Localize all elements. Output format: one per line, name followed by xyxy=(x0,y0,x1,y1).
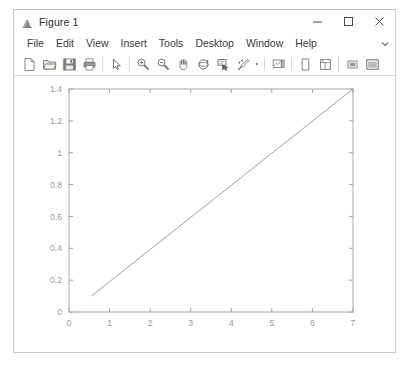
x-tick-label: 4 xyxy=(229,318,234,328)
y-tick-label: 0.8 xyxy=(50,180,62,190)
menu-bar: File Edit View Insert Tools Desktop Wind… xyxy=(14,33,395,53)
toolbar-separator-5 xyxy=(338,57,339,71)
y-tick-label: 0.4 xyxy=(50,243,62,253)
menu-item-file[interactable]: File xyxy=(21,33,50,53)
toolbar-separator-1 xyxy=(102,57,103,71)
chevron-down-icon[interactable] xyxy=(381,40,389,48)
x-tick-label: 5 xyxy=(269,318,274,328)
y-tick-label: 1 xyxy=(57,148,62,158)
plot-browser-icon[interactable] xyxy=(315,54,335,74)
legend-icon[interactable] xyxy=(295,54,315,74)
brush-select-icon[interactable] xyxy=(233,54,253,74)
window-title: Figure 1 xyxy=(39,16,78,28)
printer-icon[interactable] xyxy=(79,54,99,74)
new-document-icon[interactable] xyxy=(19,54,39,74)
title-bar-left: Figure 1 xyxy=(14,16,78,28)
data-line-line1 xyxy=(91,89,353,296)
title-bar[interactable]: Figure 1 xyxy=(14,10,395,33)
menu-item-window[interactable]: Window xyxy=(240,33,289,53)
close-button[interactable] xyxy=(364,10,395,33)
save-floppy-icon[interactable] xyxy=(59,54,79,74)
y-tick-label: 0.2 xyxy=(50,275,62,285)
window-controls xyxy=(302,10,395,33)
property-editor-icon[interactable] xyxy=(342,54,362,74)
x-tick-label: 2 xyxy=(148,318,153,328)
y-tick-label: 0.6 xyxy=(50,212,62,222)
figure-canvas[interactable]: 0123456700.20.40.60.811.21.4 xyxy=(14,76,395,352)
colorbar-icon[interactable] xyxy=(268,54,288,74)
toolbar-separator-3 xyxy=(264,57,265,71)
x-tick-label: 3 xyxy=(188,318,193,328)
menu-item-insert[interactable]: Insert xyxy=(115,33,153,53)
y-tick-label: 1.4 xyxy=(50,84,62,94)
figure-window: Figure 1 xyxy=(13,9,396,353)
y-tick-label: 0 xyxy=(57,307,62,317)
menu-item-desktop[interactable]: Desktop xyxy=(189,33,240,53)
figure-toolbar xyxy=(14,53,395,76)
zoom-out-icon[interactable] xyxy=(153,54,173,74)
zoom-in-icon[interactable] xyxy=(133,54,153,74)
x-tick-label: 0 xyxy=(67,318,72,328)
y-tick-label: 1.2 xyxy=(50,116,62,126)
x-tick-label: 1 xyxy=(107,318,112,328)
x-tick-label: 7 xyxy=(351,318,356,328)
toolbar-separator-4 xyxy=(291,57,292,71)
hand-pan-icon[interactable] xyxy=(173,54,193,74)
data-cursor-icon[interactable] xyxy=(213,54,233,74)
menu-item-tools[interactable]: Tools xyxy=(153,33,190,53)
maximize-button[interactable] xyxy=(333,10,364,33)
minimize-button[interactable] xyxy=(302,10,333,33)
screenshot-root: Figure 1 xyxy=(0,0,408,372)
x-tick-label: 6 xyxy=(310,318,315,328)
matlab-membrane-icon xyxy=(21,16,33,28)
link-dot-icon[interactable] xyxy=(253,54,261,74)
rotate-3d-icon[interactable] xyxy=(193,54,213,74)
menu-item-help[interactable]: Help xyxy=(289,33,323,53)
toolbar-separator-2 xyxy=(129,57,130,71)
line-plot[interactable]: 0123456700.20.40.60.811.21.4 xyxy=(14,76,395,352)
menu-item-edit[interactable]: Edit xyxy=(50,33,80,53)
menu-item-view[interactable]: View xyxy=(80,33,115,53)
figure-palette-icon[interactable] xyxy=(362,54,382,74)
pointer-arrow-icon[interactable] xyxy=(106,54,126,74)
open-folder-icon[interactable] xyxy=(39,54,59,74)
